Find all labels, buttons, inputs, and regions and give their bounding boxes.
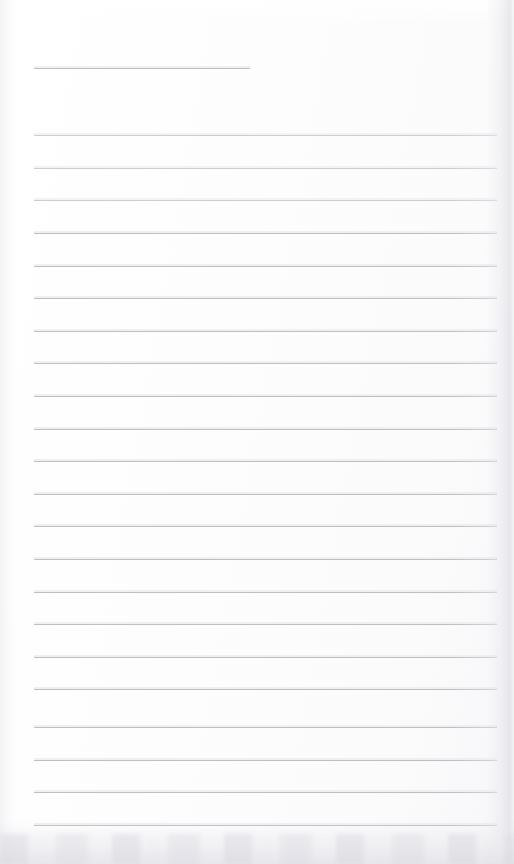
ruled-line-taper (451, 266, 497, 267)
ruled-line-taper (451, 168, 497, 169)
scanned-page (0, 0, 514, 864)
ruled-line (34, 825, 497, 826)
ruled-line-taper (451, 331, 497, 332)
ruled-line-taper (451, 200, 497, 201)
ruled-line (34, 298, 497, 299)
ruled-line-taper (451, 494, 497, 495)
ruled-line (34, 363, 497, 364)
ruled-line-taper (451, 526, 497, 527)
ruled-line (34, 331, 497, 332)
ruled-line (34, 592, 497, 593)
ruled-line-taper (451, 657, 497, 658)
ruled-line-taper (451, 396, 497, 397)
ruled-line (34, 266, 497, 267)
ruled-line-taper (451, 792, 497, 793)
ruled-line (34, 429, 497, 430)
ruled-line (34, 200, 497, 201)
ruled-line-taper (451, 233, 497, 234)
ruled-line (34, 760, 497, 761)
ruled-line (34, 168, 497, 169)
ruled-line (34, 559, 497, 560)
ruled-line (34, 494, 497, 495)
ruled-line-taper (451, 825, 497, 826)
ruled-line (34, 135, 497, 136)
ruled-line-taper (451, 760, 497, 761)
ruled-line-taper (451, 559, 497, 560)
ruled-line-taper (451, 298, 497, 299)
ruled-line-taper (451, 624, 497, 625)
ruled-line-taper (451, 429, 497, 430)
ruled-line-taper (451, 135, 497, 136)
ruled-line (34, 792, 497, 793)
ruled-line-taper (451, 461, 497, 462)
ruled-line (34, 727, 497, 728)
ruled-line (34, 461, 497, 462)
ruled-line-taper (451, 363, 497, 364)
ruled-line (34, 68, 250, 69)
ruled-line (34, 396, 497, 397)
ruled-line (34, 689, 497, 690)
ruled-line (34, 233, 497, 234)
ruled-line-taper (451, 727, 497, 728)
ruled-line (34, 526, 497, 527)
paper-background (0, 0, 514, 864)
ruled-line-taper (451, 592, 497, 593)
ruled-line (34, 657, 497, 658)
ruled-line-taper (451, 689, 497, 690)
ruled-line (34, 624, 497, 625)
